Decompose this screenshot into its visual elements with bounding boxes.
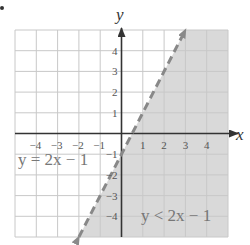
y-tick-label: 1	[112, 107, 118, 119]
y-tick-label: 3	[112, 65, 118, 77]
y-tick-label: 2	[112, 86, 118, 98]
x-tick-label: 3	[183, 139, 189, 151]
x-tick-label: −3	[51, 139, 63, 151]
y-tick-label: 4	[112, 45, 118, 57]
x-tick-label: −2	[72, 139, 84, 151]
x-tick-label: 1	[140, 139, 146, 151]
y-tick-label: −1	[106, 148, 118, 160]
x-tick-label: −1	[93, 139, 105, 151]
y-tick-label: −2	[106, 169, 118, 181]
line-equation-label: y = 2x − 1	[18, 150, 88, 169]
y-tick-label: −4	[106, 210, 118, 222]
inequality-label: y < 2x − 1	[141, 206, 211, 225]
y-tick-label: −3	[106, 190, 118, 202]
x-tick-label: 4	[204, 139, 210, 151]
x-tick-label: −4	[29, 139, 41, 151]
x-tick-label: 2	[161, 139, 167, 151]
x-axis-label: x	[235, 125, 244, 144]
inequality-graph: −4−3−2−112344321−1−2−3−4 x y y = 2x − 1 …	[0, 0, 250, 245]
y-axis-label: y	[114, 5, 124, 24]
